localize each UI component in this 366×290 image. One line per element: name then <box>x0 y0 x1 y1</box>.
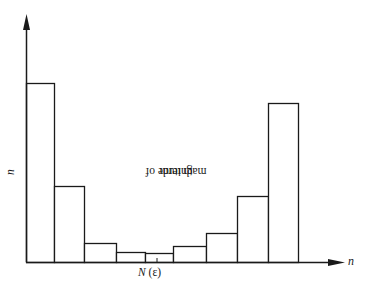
bar-5 <box>146 254 174 263</box>
bar-3 <box>85 244 117 263</box>
x-axis-label: n <box>348 254 354 269</box>
bar-6 <box>174 247 207 263</box>
bar-9 <box>269 104 299 263</box>
bar-8 <box>238 197 269 263</box>
bar-7 <box>207 234 238 263</box>
y-axis-label: magnitude of nth term <box>0 0 20 290</box>
bar-4 <box>117 253 146 263</box>
bar-2 <box>55 187 85 263</box>
x-axis-arrow-icon <box>328 259 345 266</box>
histogram-chart <box>0 0 366 290</box>
y-axis-arrow-icon <box>23 14 30 30</box>
n-epsilon-label: N (ε) <box>138 266 161 278</box>
bar-1 <box>27 84 55 263</box>
